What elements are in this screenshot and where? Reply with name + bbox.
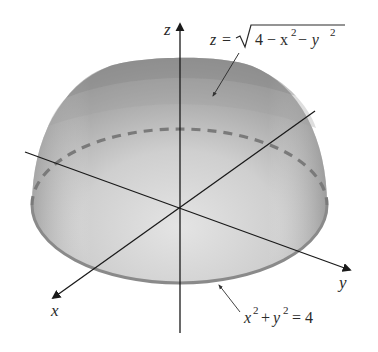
svg-text:2: 2 (283, 304, 289, 316)
svg-text:y: y (271, 309, 281, 327)
surface-equation: z = 4 − x 2 − y 2 (209, 25, 345, 49)
boundary-equation: x 2 + y 2 = 4 (243, 304, 313, 327)
svg-text:z: z (209, 31, 217, 48)
svg-text:= 4: = 4 (292, 309, 313, 326)
svg-text:− y: − y (297, 31, 320, 49)
svg-text:+: + (261, 309, 270, 326)
y-axis-label: y (337, 273, 347, 292)
boundary-pointer-arrow (219, 285, 240, 312)
z-axis-label: z (163, 20, 171, 39)
x-axis-label: x (50, 301, 59, 320)
svg-text:2: 2 (291, 26, 297, 38)
hemisphere-figure: z y x z = 4 − x 2 − y 2 x 2 + y 2 = 4 (0, 0, 378, 352)
svg-text:2: 2 (253, 304, 259, 316)
svg-text:=: = (222, 31, 231, 48)
svg-text:2: 2 (330, 26, 336, 38)
svg-text:4 − x: 4 − x (255, 31, 288, 48)
svg-text:x: x (243, 309, 251, 326)
